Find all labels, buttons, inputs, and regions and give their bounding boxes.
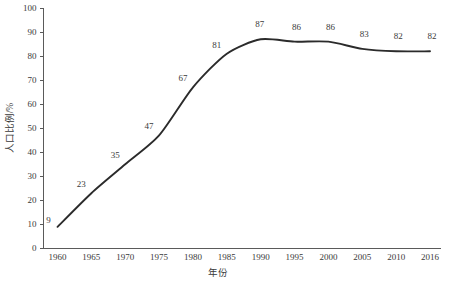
data-point-label: 86: [326, 22, 336, 32]
data-point-label: 47: [145, 121, 155, 131]
x-axis-tick-labels: 1960196519701975198019851990199520002005…: [49, 252, 440, 262]
x-axis-tick-label: 1985: [218, 252, 237, 262]
y-axis-tick-label: 0: [32, 243, 37, 253]
y-axis-tick-label: 70: [28, 75, 38, 85]
y-axis-tick-label: 100: [23, 3, 37, 13]
x-axis-group: 1960196519701975198019851990199520002005…: [44, 249, 442, 263]
data-point-label: 81: [212, 40, 221, 50]
data-point-label: 9: [46, 215, 51, 225]
x-axis-tick-label: 2010: [387, 252, 406, 262]
data-point-label: 83: [360, 29, 370, 39]
y-axis-tick-labels: 0102030405060708090100: [23, 3, 37, 254]
data-series-line: [58, 39, 431, 227]
x-axis-tick-label: 1970: [116, 252, 135, 262]
x-axis-tick-label: 1995: [286, 252, 305, 262]
y-axis-tick-label: 10: [28, 219, 38, 229]
x-axis-tick-label: 2000: [319, 252, 338, 262]
x-axis-tick-label: 1990: [252, 252, 271, 262]
y-axis-tick-label: 60: [28, 99, 38, 109]
y-axis-tick-label: 20: [28, 195, 38, 205]
y-axis-tick-label: 40: [28, 147, 38, 157]
data-point-label: 86: [292, 22, 302, 32]
data-point-label: 82: [428, 31, 437, 41]
y-axis-tick-marks: [40, 8, 44, 249]
x-axis-tick-label: 2005: [353, 252, 372, 262]
y-axis-tick-label: 90: [28, 27, 38, 37]
data-point-label: 35: [111, 150, 121, 160]
chart-canvas: 0102030405060708090100 19601965197019751…: [0, 0, 452, 288]
x-axis-tick-label: 1965: [82, 252, 101, 262]
x-axis-tick-label: 1980: [184, 252, 203, 262]
data-point-label: 23: [77, 179, 87, 189]
y-axis-tick-label: 50: [28, 123, 38, 133]
x-axis-title: 年份: [208, 267, 228, 278]
line-chart-figure: 0102030405060708090100 19601965197019751…: [0, 0, 452, 288]
y-axis-group: 0102030405060708090100: [23, 3, 44, 254]
data-point-label: 87: [255, 19, 265, 29]
y-axis-tick-label: 80: [28, 51, 38, 61]
y-axis-title: 人口比例/%: [4, 103, 15, 154]
data-point-label: 82: [394, 31, 403, 41]
x-axis-tick-label: 1975: [150, 252, 169, 262]
x-axis-tick-label: 1960: [49, 252, 68, 262]
x-axis-tick-label: 2016: [421, 252, 440, 262]
data-point-label: 67: [178, 73, 188, 83]
y-axis-tick-label: 30: [28, 171, 38, 181]
